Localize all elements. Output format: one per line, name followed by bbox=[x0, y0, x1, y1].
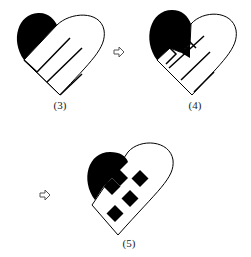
diagram-canvas bbox=[0, 0, 251, 257]
figure-label-5: (5) bbox=[109, 237, 149, 249]
heart-step-5 bbox=[87, 143, 173, 235]
heart-step-3 bbox=[17, 13, 104, 95]
hollow-right-arrow-icon bbox=[40, 190, 50, 200]
heart-step-4 bbox=[149, 10, 236, 95]
figure-label-4: (4) bbox=[175, 99, 215, 111]
hollow-right-arrow-icon bbox=[114, 47, 124, 57]
figure-label-3: (3) bbox=[40, 99, 80, 111]
